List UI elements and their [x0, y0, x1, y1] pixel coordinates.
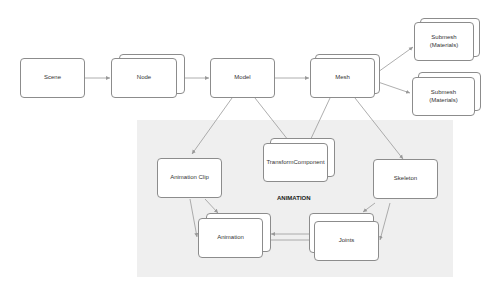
- node-label: Mesh: [335, 74, 350, 82]
- node-label: Joints: [339, 237, 355, 245]
- node-joints[interactable]: Joints: [314, 221, 379, 261]
- node-label: TransformComponent: [266, 159, 324, 167]
- node-mesh[interactable]: Mesh: [310, 58, 375, 98]
- node-label: Scene: [44, 74, 61, 82]
- node-label: Submesh (Materials): [429, 89, 457, 104]
- node-label: Model: [234, 74, 250, 82]
- node-scene[interactable]: Scene: [20, 58, 85, 98]
- node-submesh-2[interactable]: Submesh (Materials): [412, 77, 475, 116]
- node-label: Submesh (Materials): [430, 34, 458, 49]
- node-model[interactable]: Model: [210, 58, 275, 98]
- node-submesh-1[interactable]: Submesh (Materials): [414, 22, 474, 61]
- node-animation-clip[interactable]: Animation Clip: [157, 158, 222, 198]
- node-label: Node: [137, 74, 151, 82]
- node-skeleton[interactable]: Skeleton: [373, 159, 438, 199]
- node-label: Animation Clip: [170, 174, 209, 182]
- node-transform-component[interactable]: TransformComponent: [263, 143, 328, 182]
- node-label: Skeleton: [394, 175, 417, 183]
- node-node[interactable]: Node: [111, 58, 177, 98]
- node-label: Animation: [217, 234, 244, 242]
- node-animation[interactable]: Animation: [198, 218, 263, 258]
